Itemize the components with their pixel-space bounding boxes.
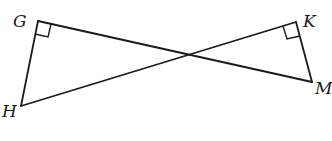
- segment-KM: [296, 22, 312, 82]
- geometry-diagram: G H K M: [0, 0, 332, 141]
- label-K: K: [302, 11, 317, 31]
- label-H: H: [1, 101, 18, 121]
- segment-HK: [21, 22, 296, 106]
- label-M: M: [314, 78, 332, 98]
- label-G: G: [13, 11, 27, 31]
